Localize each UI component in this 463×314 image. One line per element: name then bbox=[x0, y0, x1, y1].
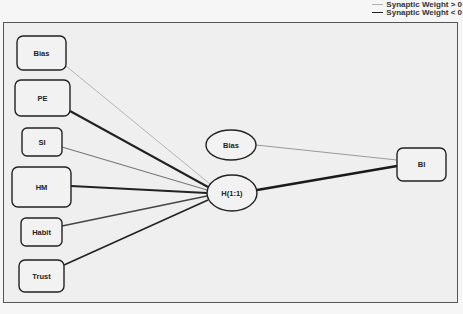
connection-si-to-h bbox=[62, 147, 207, 190]
input-node-hm-label: HM bbox=[36, 183, 48, 192]
input-node-habit: Habit bbox=[21, 218, 62, 246]
input-node-bias-label: Bias bbox=[34, 49, 50, 58]
input-node-si: SI bbox=[22, 128, 62, 156]
output-node-bi-label: BI bbox=[418, 160, 426, 169]
input-node-trust-label: Trust bbox=[32, 272, 51, 281]
connection-trust-to-h bbox=[64, 200, 208, 265]
input-node-hm: HM bbox=[12, 167, 71, 207]
network-diagram: Bias PE SI HM Habit Trust Bias H(1:1) BI bbox=[0, 0, 463, 314]
connection-hm-to-h bbox=[71, 186, 207, 193]
hidden-node-bias-label: Bias bbox=[223, 141, 239, 150]
hidden-node-h11-label: H(1:1) bbox=[221, 189, 243, 198]
input-node-habit-label: Habit bbox=[32, 228, 51, 237]
input-node-si-label: SI bbox=[38, 138, 45, 147]
input-node-trust: Trust bbox=[19, 260, 64, 292]
connection-hbias-to-bi bbox=[256, 145, 397, 160]
hidden-node-bias: Bias bbox=[206, 130, 256, 160]
connection-pe-to-h bbox=[70, 111, 208, 187]
input-node-pe-label: PE bbox=[37, 94, 47, 103]
connections bbox=[62, 66, 397, 265]
connection-bias-to-h bbox=[66, 66, 210, 184]
hidden-node-h11: H(1:1) bbox=[207, 175, 257, 211]
input-node-pe: PE bbox=[15, 80, 70, 116]
connection-h-to-bi bbox=[257, 166, 397, 190]
output-node-bi: BI bbox=[397, 148, 446, 181]
input-node-bias: Bias bbox=[17, 36, 66, 70]
